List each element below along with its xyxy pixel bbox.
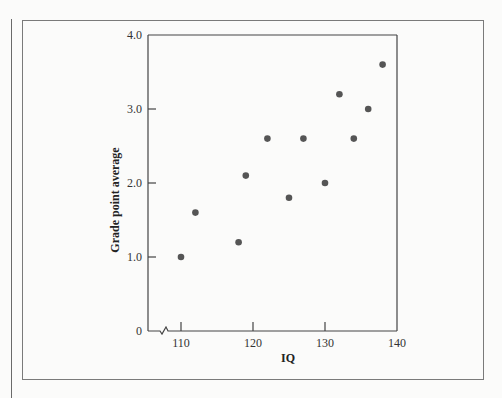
data-point [379,61,386,68]
y-tick-label: 4.0 [127,28,142,42]
y-axis: 01.02.03.04.0 [127,28,156,338]
data-point [286,195,293,202]
x-axis: 110120130140 [172,322,406,350]
data-point [192,209,199,216]
data-point [351,135,358,142]
x-tick-label: 120 [244,336,262,350]
plot-area [148,35,397,334]
data-point [365,106,372,113]
y-axis-title: Grade point average [108,147,122,253]
y-tick-label: 2.0 [127,176,142,190]
data-point [322,180,329,187]
x-tick-label: 110 [172,336,190,350]
scatter-chart: 01.02.03.04.0 110120130140 IQ Grade poin… [0,0,502,398]
data-point [235,239,242,246]
data-points [178,61,386,260]
data-point [264,135,271,142]
x-tick-label: 140 [388,336,406,350]
x-tick-label: 130 [316,336,334,350]
data-point [178,254,185,261]
x-axis-line-with-break [148,327,397,334]
y-tick-label: 0 [136,324,142,338]
x-axis-title: IQ [281,351,295,365]
y-tick-label: 3.0 [127,102,142,116]
y-tick-label: 1.0 [127,250,142,264]
data-point [300,135,307,142]
data-point [243,172,250,179]
data-point [336,91,343,98]
